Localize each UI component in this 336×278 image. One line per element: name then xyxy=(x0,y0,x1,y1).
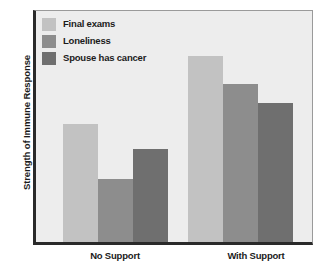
chart-legend: Final exams Loneliness Spouse has cancer xyxy=(42,16,146,67)
x-axis-label-no-support: No Support xyxy=(90,250,140,261)
legend-item-loneliness: Loneliness xyxy=(42,33,146,49)
bar-with-support-loneliness xyxy=(223,84,258,242)
bar-with-support-final-exams xyxy=(188,56,223,242)
bar-no-support-loneliness xyxy=(98,179,133,242)
y-axis-title: Strength of Immune Response xyxy=(21,33,32,213)
legend-item-spouse-has-cancer: Spouse has cancer xyxy=(42,50,146,66)
plot-area: Final exams Loneliness Spouse has cancer xyxy=(33,10,313,245)
legend-swatch-loneliness xyxy=(42,35,56,48)
legend-item-final-exams: Final exams xyxy=(42,16,146,32)
bar-with-support-spouse-has-cancer xyxy=(258,103,293,242)
bar-no-support-spouse-has-cancer xyxy=(133,149,168,242)
legend-label-spouse-has-cancer: Spouse has cancer xyxy=(63,53,146,63)
bar-no-support-final-exams xyxy=(63,124,98,242)
legend-swatch-spouse-has-cancer xyxy=(42,52,56,65)
legend-label-final-exams: Final exams xyxy=(63,19,115,29)
bar-chart-figure: Strength of Immune Response Final exams … xyxy=(0,0,336,278)
legend-swatch-final-exams xyxy=(42,18,56,31)
legend-label-loneliness: Loneliness xyxy=(63,36,111,46)
x-axis-label-with-support: With Support xyxy=(227,250,284,261)
